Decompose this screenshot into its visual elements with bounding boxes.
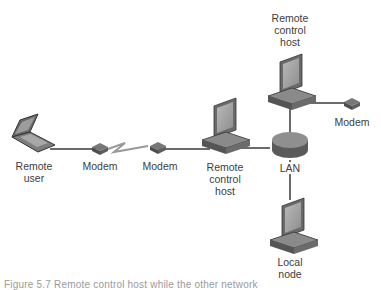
remote-host-top-label: Remote control host [265,12,315,48]
remote-user-label: Remote user [14,160,54,184]
modem-icon [92,143,108,155]
remote-host-center-label: Remote control host [200,161,250,197]
label-line: Remote [265,12,315,24]
label-line: control [265,24,315,36]
label-line: host [200,185,250,197]
lightning-bolt-icon [108,143,148,152]
label-line: Remote [14,160,54,172]
label-line: node [270,268,310,280]
laptop-icon [12,114,55,152]
desktop-computer-icon [202,98,250,154]
label-line: Local [270,256,310,268]
label-line: user [14,172,54,184]
lan-label: LAN [275,162,305,174]
modem-left-label: Modem [80,160,120,172]
modem-icon [344,98,360,110]
label-line: Modem [332,116,372,128]
label-line: host [265,36,315,48]
label-line: Modem [80,160,120,172]
label-line: Modem [140,160,180,172]
lan-hub-icon [272,132,308,158]
label-line: Remote [200,161,250,173]
modem-top-right-label: Modem [332,116,372,128]
modem-icon [150,142,166,154]
desktop-computer-icon [268,54,316,110]
modem-right-label: Modem [140,160,180,172]
label-line: control [200,173,250,185]
label-line: LAN [275,162,305,174]
local-node-label: Local node [270,256,310,280]
figure-caption: Figure 5.7 Remote control host while the… [4,279,258,290]
desktop-computer-icon [270,198,318,254]
